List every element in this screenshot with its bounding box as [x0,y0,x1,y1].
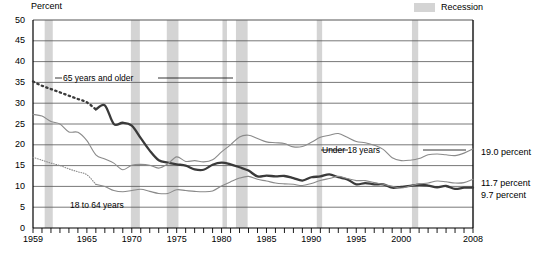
x-tick-1959: 1959 [13,235,53,244]
annotation-65-and-older: 65 years and older [63,74,133,83]
y-tick-0: 0 [3,224,25,233]
x-tick-1975: 1975 [157,235,197,244]
x-axis-ticks [33,228,473,233]
y-tick-10: 10 [3,182,25,191]
x-tick-2008: 2008 [453,235,493,244]
y-tick-50: 50 [3,16,25,25]
series-line-solid [33,114,473,169]
y-tick-5: 5 [3,203,25,212]
x-tick-1980: 1980 [202,235,242,244]
gridlines [33,20,473,207]
y-tick-20: 20 [3,140,25,149]
data-series [33,82,473,194]
y-tick-45: 45 [3,36,25,45]
chart-canvas [0,0,544,253]
annotation-18-to-64: 18 to 64 years [70,201,124,210]
x-tick-1985: 1985 [246,235,286,244]
x-tick-1965: 1965 [67,235,107,244]
y-tick-35: 35 [3,78,25,87]
end-label-18-to-64: 11.7 percent [481,179,530,188]
x-tick-2000: 2000 [381,235,421,244]
x-tick-1970: 1970 [112,235,152,244]
series-line-dashed [33,157,96,184]
y-tick-15: 15 [3,161,25,170]
y-tick-25: 25 [3,120,25,129]
x-tick-1990: 1990 [291,235,331,244]
series-line-dashed [33,82,96,110]
y-tick-30: 30 [3,99,25,108]
annotation-under-18: Under 18 years [322,146,380,155]
y-tick-40: 40 [3,57,25,66]
poverty-rate-chart: Percent Recession 50454035302520151050 1… [0,0,544,253]
end-label-65-and-older: 9.7 percent [481,191,526,200]
end-label-under-18: 19.0 percent [481,148,531,157]
x-tick-1995: 1995 [336,235,376,244]
